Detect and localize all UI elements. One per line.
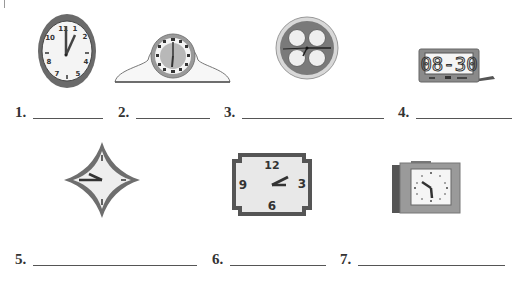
exercise-4-answer-blank[interactable]	[416, 118, 512, 119]
svg-text:5: 5	[76, 70, 81, 78]
svg-text:2: 2	[83, 33, 88, 41]
exercise-2-number: 2.	[118, 105, 129, 120]
exercise-2-answer-blank[interactable]	[136, 118, 210, 119]
exercise-6-number: 6.	[212, 252, 223, 267]
svg-text:1: 1	[73, 25, 78, 33]
svg-text:12: 12	[264, 159, 279, 172]
svg-text:6: 6	[268, 199, 276, 213]
clock-7-desk-clock-icon	[392, 161, 460, 214]
exercise-7-number: 7.	[340, 252, 351, 267]
svg-text:4: 4	[84, 58, 89, 66]
exercise-7-answer-blank[interactable]	[358, 265, 505, 266]
clock-5-diamond-wall-clock-icon	[63, 141, 141, 219]
clock-1-oval-wall-clock-icon: 11 1 10 2 4 8 7 5	[37, 13, 97, 89]
exercise-3-number: 3.	[224, 105, 235, 120]
clock-3-round-wall-clock-icon	[275, 16, 339, 80]
clock-6-rectangular-wall-clock-icon: 12 3 6 9	[232, 153, 312, 216]
exercise-1-answer-blank[interactable]	[33, 118, 103, 119]
svg-text:08-30: 08-30	[420, 53, 477, 75]
clock-4-digital-clock-icon: 08-30	[419, 49, 495, 83]
exercise-5-number: 5.	[15, 252, 26, 267]
exercise-4-number: 4.	[398, 105, 409, 120]
svg-text:7: 7	[55, 70, 60, 78]
svg-text:9: 9	[239, 178, 247, 192]
exercise-6-answer-blank[interactable]	[230, 265, 326, 266]
exercise-5-answer-blank[interactable]	[33, 265, 197, 266]
exercise-3-answer-blank[interactable]	[242, 118, 384, 119]
page-edge-mark	[0, 0, 5, 8]
svg-text:8: 8	[47, 58, 52, 66]
clock-2-mantel-clock-icon	[113, 30, 232, 84]
svg-text:10: 10	[45, 34, 55, 42]
exercise-1-number: 1.	[15, 105, 26, 120]
svg-text:3: 3	[298, 177, 306, 191]
